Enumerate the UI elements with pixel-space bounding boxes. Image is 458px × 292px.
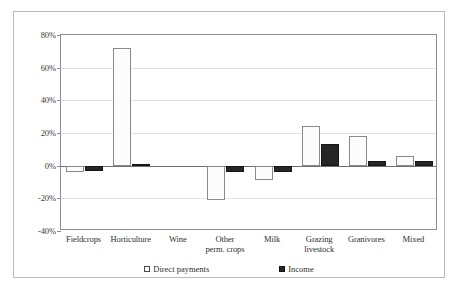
chart-legend: Direct paymentsIncome [14, 264, 444, 274]
bar-direct-payments [113, 48, 131, 166]
category-group [391, 35, 438, 229]
x-axis-label-line: livestock [286, 244, 353, 254]
bar-direct-payments [302, 126, 320, 165]
category-group [250, 35, 297, 229]
x-axis-label-line: perm. crops [191, 244, 258, 254]
y-axis-tick-label: 60% [41, 63, 56, 72]
bar-income [321, 144, 339, 165]
legend-item[interactable]: Direct payments [144, 264, 209, 274]
bar-income [415, 161, 433, 166]
bar-direct-payments [66, 166, 84, 173]
category-group [344, 35, 391, 229]
plot-area: 80%60%40%20%0%-20%-40% [60, 34, 437, 230]
x-axis-label-line: Grazing [306, 234, 333, 244]
y-axis-tick-mark [57, 231, 61, 232]
x-axis-label-line: Mixed [403, 234, 425, 244]
legend-item-label: Direct payments [153, 264, 209, 274]
bar-income [368, 161, 386, 166]
legend-item[interactable]: Income [279, 264, 314, 274]
hollow-square-icon [144, 266, 150, 272]
bar-income [132, 164, 150, 166]
x-axis-label-line: Milk [264, 234, 280, 244]
bar-direct-payments [255, 166, 273, 181]
category-group [202, 35, 249, 229]
y-axis-tick-label: 20% [41, 129, 56, 138]
filled-square-icon [279, 266, 285, 272]
y-axis-tick-label: 40% [41, 96, 56, 105]
y-axis-tick-label: 0% [45, 161, 56, 170]
category-group [108, 35, 155, 229]
x-axis-label-line: Other [216, 234, 235, 244]
x-axis-label: Mixed [380, 234, 447, 244]
bar-income [274, 166, 292, 173]
y-axis-tick-label: -20% [38, 194, 56, 203]
legend-item-label: Income [288, 264, 314, 274]
category-group [155, 35, 202, 229]
category-group [297, 35, 344, 229]
bar-income [85, 166, 103, 171]
chart-frame: 80%60%40%20%0%-20%-40% FieldcropsHorticu… [13, 11, 445, 278]
bar-direct-payments [396, 156, 414, 166]
category-group [61, 35, 108, 229]
bar-income [226, 166, 244, 173]
y-axis-tick-label: 80% [41, 31, 56, 40]
x-axis-label-line: Fieldcrops [66, 234, 101, 244]
x-axis-label-line: Wine [169, 234, 187, 244]
bar-direct-payments [207, 166, 225, 200]
bar-direct-payments [349, 136, 367, 165]
